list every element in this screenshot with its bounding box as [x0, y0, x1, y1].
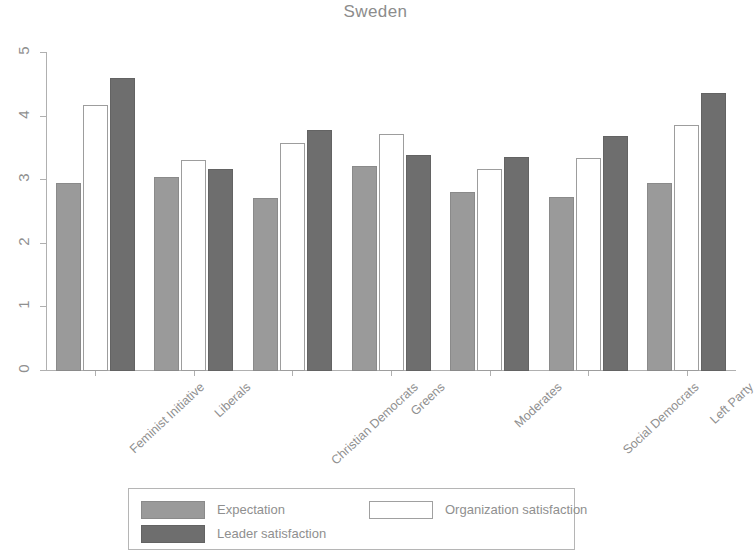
x-axis-category-label: Left Party [707, 380, 756, 427]
x-axis-tick-mark [687, 371, 688, 376]
bar [450, 192, 475, 371]
x-axis-tick-mark [95, 371, 96, 376]
y-axis-tick-label: 2 [15, 230, 32, 252]
x-axis-category-label: Moderates [511, 380, 564, 431]
plot-area [46, 50, 736, 371]
bar [253, 198, 278, 371]
bar [549, 197, 574, 371]
x-axis-category-label: Feminist Initiative [127, 380, 207, 456]
bar [56, 183, 81, 371]
bar [674, 125, 699, 371]
x-axis-category-label: Christian Democrats [329, 380, 421, 467]
bar [307, 130, 332, 371]
legend-label: Expectation [217, 501, 285, 519]
bar [701, 93, 726, 371]
x-axis-category-label: Liberals [212, 380, 254, 420]
y-axis-tick-label: 4 [15, 103, 32, 125]
legend-swatch-organization [369, 501, 433, 519]
bar [110, 78, 135, 371]
y-axis-tick-label: 5 [15, 40, 32, 62]
y-axis-tick-label: 0 [15, 358, 32, 380]
chart-legend: ExpectationOrganization satisfactionLead… [128, 488, 575, 550]
x-axis-tick-mark [292, 371, 293, 376]
bar [352, 166, 377, 371]
bar [406, 155, 431, 371]
x-axis-tick-mark [194, 371, 195, 376]
bar [379, 134, 404, 371]
bar [603, 136, 628, 371]
y-axis-tick-label: 3 [15, 167, 32, 189]
bar [181, 160, 206, 371]
bar [504, 157, 529, 371]
legend-swatch-expectation [141, 501, 205, 519]
legend-label: Organization satisfaction [445, 501, 587, 519]
x-axis-tick-mark [490, 371, 491, 376]
bar [280, 143, 305, 371]
legend-label: Leader satisfaction [217, 525, 326, 543]
legend-swatch-leader [141, 525, 205, 543]
bar [576, 158, 601, 371]
bar [208, 169, 233, 371]
bar [477, 169, 502, 371]
x-axis-tick-mark [588, 371, 589, 376]
x-axis-category-label: Social Democrats [620, 380, 701, 457]
chart-title: Sweden [0, 2, 751, 22]
y-axis-tick-label: 1 [15, 294, 32, 316]
bar [154, 177, 179, 371]
bar [647, 183, 672, 371]
bar [83, 105, 108, 371]
x-axis-tick-mark [391, 371, 392, 376]
